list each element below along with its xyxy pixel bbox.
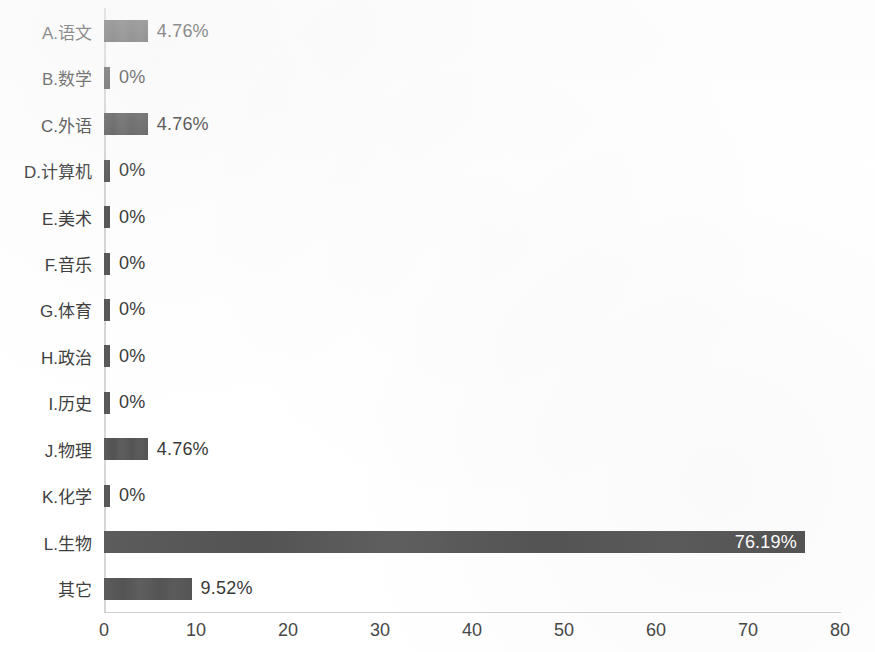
bar-container: 4.76% [104,426,209,472]
bar-value-label: 0% [119,253,145,274]
x-tick-label: 20 [258,620,318,641]
bar-container: 0% [104,194,145,240]
bar[interactable] [104,438,148,460]
bar-row: C.外语4.76% [0,101,875,147]
bar-container: 4.76% [104,8,209,54]
bar-value-label: 0% [119,207,145,228]
category-label: I.历史 [0,380,92,426]
bar-value-label: 4.76% [157,114,209,135]
x-axis-line [104,612,841,613]
bar[interactable] [104,345,110,367]
x-tick-label: 10 [166,620,226,641]
bar-row: I.历史0% [0,380,875,426]
category-label: A.语文 [0,8,92,54]
category-label: E.美术 [0,194,92,240]
bar-value-label: 76.19% [735,532,797,553]
bar[interactable]: 76.19% [104,531,805,553]
bar-value-label: 0% [119,346,145,367]
category-label: G.体育 [0,287,92,333]
bar-container: 0% [104,473,145,519]
category-label: C.外语 [0,101,92,147]
bar-container: 0% [104,287,145,333]
bar[interactable] [104,113,148,135]
bar[interactable] [104,578,192,600]
bar-row: G.体育0% [0,287,875,333]
bar-container: 0% [104,147,145,193]
bar-container: 76.19% [104,519,805,565]
bar-container: 0% [104,333,145,379]
bar-container: 0% [104,54,145,100]
bar-value-label: 4.76% [157,439,209,460]
bar-row: J.物理4.76% [0,426,875,472]
bar-container: 9.52% [104,566,253,612]
category-label: L.生物 [0,519,92,565]
bar-row: D.计算机0% [0,147,875,193]
category-label: 其它 [0,566,92,612]
bar-row: L.生物76.19% [0,519,875,565]
bar-container: 0% [104,240,145,286]
x-tick-label: 30 [350,620,410,641]
category-label: K.化学 [0,473,92,519]
x-tick-label: 0 [74,620,134,641]
x-tick-label: 60 [626,620,686,641]
bar[interactable] [104,253,110,275]
bar-row: K.化学0% [0,473,875,519]
category-label: B.数学 [0,54,92,100]
bar-value-label: 9.52% [201,578,253,599]
bar[interactable] [104,67,110,89]
bar-row: E.美术0% [0,194,875,240]
bar-row: F.音乐0% [0,240,875,286]
bar[interactable] [104,160,110,182]
bar-value-label: 0% [119,67,145,88]
bar-value-label: 0% [119,392,145,413]
bar[interactable] [104,20,148,42]
category-label: H.政治 [0,333,92,379]
bar-container: 0% [104,380,145,426]
bar[interactable] [104,485,110,507]
bar-value-label: 0% [119,299,145,320]
horizontal-bar-chart: A.语文4.76%B.数学0%C.外语4.76%D.计算机0%E.美术0%F.音… [0,0,875,652]
bar-row: B.数学0% [0,54,875,100]
bar[interactable] [104,392,110,414]
bar-row: 其它9.52% [0,566,875,612]
x-tick-label: 70 [718,620,778,641]
x-tick-label: 50 [534,620,594,641]
x-tick-label: 80 [810,620,870,641]
category-label: D.计算机 [0,147,92,193]
bar[interactable] [104,206,110,228]
bar[interactable] [104,299,110,321]
bar-container: 4.76% [104,101,209,147]
x-axis-tick-labels: 01020304050607080 [0,620,875,650]
bar-row: A.语文4.76% [0,8,875,54]
x-tick-label: 40 [442,620,502,641]
category-label: F.音乐 [0,240,92,286]
category-label: J.物理 [0,426,92,472]
bar-value-label: 0% [119,160,145,181]
bar-value-label: 0% [119,485,145,506]
bar-value-label: 4.76% [157,21,209,42]
bar-row: H.政治0% [0,333,875,379]
